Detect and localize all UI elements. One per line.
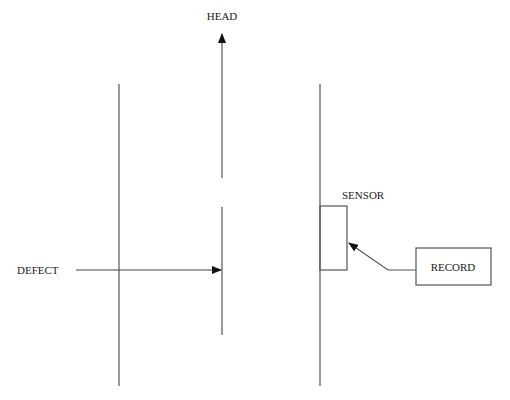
record-label: RECORD [431,261,476,273]
sensor-box [320,206,347,270]
record-to-sensor-arrow [349,243,416,270]
head-label: HEAD [207,10,238,22]
defect-label: DEFECT [17,264,59,276]
defect-detection-diagram: HEAD DEFECT SENSOR RECORD [0,0,510,400]
sensor-label: SENSOR [342,189,385,201]
